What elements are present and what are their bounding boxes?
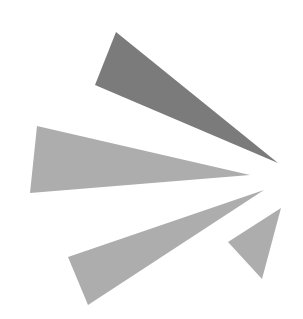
burst-logo: [0, 0, 303, 319]
top-ray-triangle: [95, 32, 278, 163]
small-ray-triangle: [228, 208, 281, 279]
